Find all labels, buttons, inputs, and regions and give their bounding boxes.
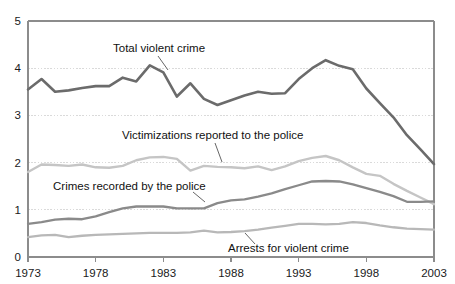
x-tick-label-2003: 2003 [421,267,447,279]
chart-container: 012345 1973197819831988199319982003 Tota… [0,0,455,284]
y-tick-label-1: 1 [15,204,21,216]
series-label-victimizations-reported-to-the-police: Victimizations reported to the police [122,129,303,141]
series-label-arrests-for-violent-crime: Arrests for violent crime [228,242,349,254]
x-tick-label-1988: 1988 [218,267,244,279]
y-tick-label-2: 2 [15,157,21,169]
y-tick-label-3: 3 [15,109,21,121]
x-tick-label-1998: 1998 [354,267,380,279]
x-tick-label-1993: 1993 [286,267,312,279]
series-label-total-violent-crime: Total violent crime [113,42,205,54]
x-tick-label-1973: 1973 [15,267,41,279]
y-tick-label-5: 5 [15,15,21,27]
y-tick-label-4: 4 [15,62,22,74]
y-tick-label-0: 0 [15,251,21,263]
violent-crime-line-chart: 012345 1973197819831988199319982003 Tota… [0,0,455,284]
series-label-crimes-recorded-by-the-police: Crimes recorded by the police [53,180,206,192]
x-tick-label-1983: 1983 [151,267,177,279]
x-tick-label-1978: 1978 [83,267,109,279]
